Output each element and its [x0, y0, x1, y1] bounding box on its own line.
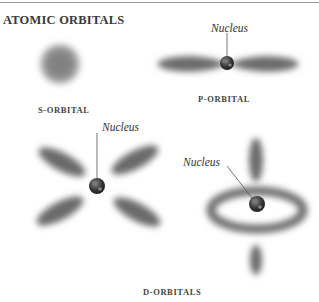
s-orbital-sphere	[40, 44, 80, 84]
d-nucleus-label-1: Nucleus	[102, 121, 139, 133]
p-nucleus-icon	[220, 56, 234, 70]
p-orbital-label: P-ORBITAL	[198, 94, 250, 104]
d-orbitals-label: D-ORBITALS	[143, 287, 201, 297]
d-nucleus-icon-1	[89, 178, 105, 194]
orbitals-illustration	[0, 0, 319, 302]
d-nucleus-label-2: Nucleus	[183, 156, 220, 168]
d-nucleus-icon-2	[249, 196, 265, 212]
s-orbital-label: S-ORBITAL	[38, 105, 90, 115]
p-nucleus-label: Nucleus	[211, 22, 248, 34]
